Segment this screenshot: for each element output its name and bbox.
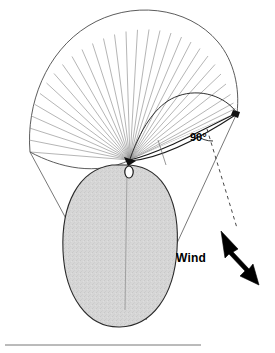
bridle-ring-icon (125, 166, 133, 178)
wing-upper-curve (130, 113, 237, 160)
diagram-canvas: 90° Wind (0, 0, 275, 353)
wind-label: Wind (176, 251, 206, 265)
angle-label: 90° (190, 131, 207, 143)
wind-arrow-icon (221, 231, 259, 285)
wind-reference-dashed-line (207, 129, 237, 228)
fan-group (29, 10, 238, 169)
canopy-group (58, 165, 180, 340)
wing-spar-group (130, 93, 240, 165)
canopy-body (63, 165, 178, 327)
wing-leading-edge (130, 93, 237, 159)
kite-wind-diagram: 90° Wind (0, 0, 275, 353)
